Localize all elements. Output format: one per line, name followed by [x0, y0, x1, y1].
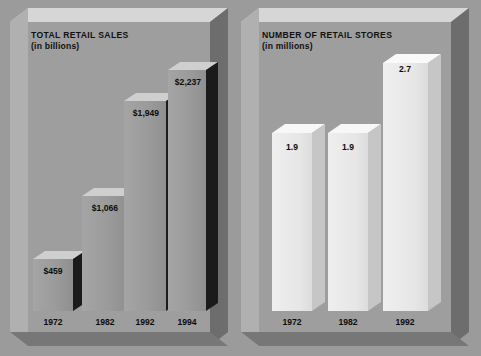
bar-side-face	[312, 124, 325, 311]
year-label-right-1982: 1982	[328, 317, 368, 327]
panel-bottom-bevel	[241, 332, 469, 346]
bar-side-face	[368, 124, 381, 311]
bar-front-face	[124, 101, 166, 311]
bar-left-1994	[168, 62, 218, 311]
chart-figure: TOTAL RETAIL SALES (in billions) $459 $1…	[0, 0, 481, 356]
panel-left-bevel	[10, 8, 28, 346]
left-panel-title: TOTAL RETAIL SALES	[31, 30, 129, 41]
left-panel-subtitle: (in billions)	[31, 41, 79, 52]
bar-left-1972	[33, 251, 85, 311]
panel-bottom-bevel	[10, 332, 228, 346]
bar-right-1982	[328, 124, 381, 311]
bar-value-right-1972: 1.9	[272, 142, 312, 152]
bar-right-1972	[272, 124, 325, 311]
panel-left-bevel	[241, 8, 259, 346]
bar-value-right-1992: 2.7	[383, 64, 427, 74]
bar-value-left-1972: $459	[33, 266, 73, 276]
panel-top-bevel	[241, 8, 469, 22]
bar-side-face	[206, 62, 218, 311]
panel-top-bevel	[10, 8, 228, 22]
bar-value-left-1992: $1,949	[120, 108, 172, 118]
bar-side-face	[428, 54, 441, 311]
right-panel-subtitle: (in millions)	[262, 41, 313, 52]
bar-right-1992	[383, 54, 441, 311]
panel-right-bevel	[451, 8, 469, 346]
right-panel-title: NUMBER OF RETAIL STORES	[262, 30, 392, 41]
year-label-left-1994: 1994	[168, 317, 206, 327]
bar-front-face	[272, 133, 312, 311]
year-label-left-1972: 1972	[33, 317, 73, 327]
bar-front-face	[328, 133, 368, 311]
bar-front-face	[168, 70, 206, 311]
bar-value-right-1982: 1.9	[328, 142, 368, 152]
bar-value-left-1994: $2,237	[162, 77, 214, 87]
year-label-left-1982: 1982	[82, 317, 128, 327]
year-label-right-1972: 1972	[272, 317, 312, 327]
bar-front-face	[383, 63, 428, 311]
year-label-right-1992: 1992	[383, 317, 427, 327]
bar-front-face	[82, 196, 128, 311]
year-label-left-1992: 1992	[124, 317, 166, 327]
